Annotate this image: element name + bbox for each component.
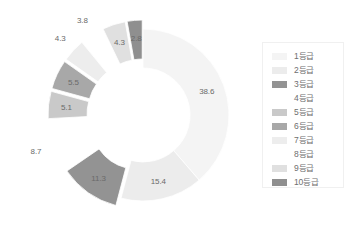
legend-item[interactable]: 4등급 [263,91,343,105]
legend-color-swatch [272,123,287,130]
legend-item-label: 9등급 [294,164,314,173]
legend-item[interactable]: 6등급 [263,119,343,133]
legend-item[interactable]: 3등급 [263,77,343,91]
slice-value-label: 4.3 [55,34,66,43]
legend-item[interactable]: 2등급 [263,63,343,77]
slice-value-label: 8.7 [31,147,42,156]
legend-color-swatch [272,67,287,74]
legend-item-label: 10등급 [294,178,319,187]
slice-value-label: 38.6 [199,87,214,96]
legend-color-swatch [272,81,287,88]
slice-value-label: 11.3 [91,173,106,182]
donut-slice[interactable] [143,29,229,180]
legend-item[interactable]: 7등급 [263,133,343,147]
legend-item-label: 1등급 [294,52,314,61]
legend-item-label: 2등급 [294,66,314,75]
slice-value-label: 5.1 [61,102,72,111]
donut-chart: 38.615.411.38.75.15.54.33.84.32.8 [0,0,260,228]
legend-item[interactable]: 9등급 [263,161,343,175]
legend-color-swatch [272,151,287,158]
legend-color-swatch [272,53,287,60]
legend-item-label: 3등급 [294,80,314,89]
slice-value-label: 4.3 [114,37,125,46]
legend-item-label: 5등급 [294,108,314,117]
legend-item[interactable]: 10등급 [263,175,343,189]
slice-value-label: 15.4 [151,177,166,186]
legend-item-label: 7등급 [294,136,314,145]
slice-value-label: 3.8 [77,15,88,24]
legend-color-swatch [272,165,287,172]
slice-value-label: 2.8 [131,34,142,43]
slice-value-label: 5.5 [68,78,79,87]
legend-item-label: 4등급 [294,94,314,103]
legend-item[interactable]: 1등급 [263,49,343,63]
chart-legend: 1등급2등급3등급4등급5등급6등급7등급8등급9등급10등급 [262,42,344,188]
legend-item-label: 8등급 [294,150,314,159]
legend-color-swatch [272,95,287,102]
legend-color-swatch [272,109,287,116]
legend-item[interactable]: 5등급 [263,105,343,119]
legend-item-label: 6등급 [294,122,314,131]
legend-item[interactable]: 8등급 [263,147,343,161]
legend-color-swatch [272,179,287,186]
legend-color-swatch [272,137,287,144]
